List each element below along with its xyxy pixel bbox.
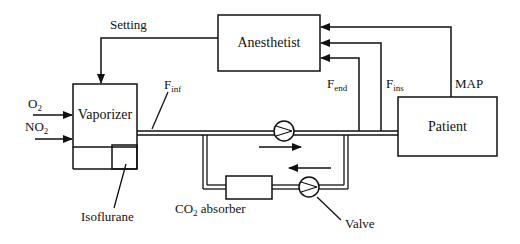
vaporizer-label: Vaporizer [73, 108, 137, 122]
inspiratory-valve [274, 121, 294, 141]
anesthetist-label: Anesthetist [218, 36, 320, 50]
f-inf-pointer [152, 92, 168, 129]
setting-signal-line [101, 38, 218, 83]
map-label: MAP [455, 77, 483, 90]
valve-pointer [317, 197, 341, 220]
f-end-label: Fend [327, 77, 347, 93]
return-loop-pipe [203, 135, 348, 189]
isoflurane-chamber [112, 145, 137, 169]
isoflurane-pointer [114, 164, 126, 208]
patient-label: Patient [398, 120, 497, 134]
f-ins-label: Fins [386, 77, 404, 93]
co2-absorber-block [226, 176, 272, 199]
setting-label: Setting [110, 18, 147, 31]
main-gas-pipe [137, 131, 398, 135]
o2-label: O2 [28, 97, 42, 113]
co2-absorber-label: CO2 absorber [175, 202, 246, 218]
isoflurane-label: Isoflurane [81, 210, 134, 223]
no2-label: NO2 [25, 120, 48, 136]
valve-label: Valve [345, 217, 375, 230]
f-inf-label: Finf [164, 78, 181, 94]
expiratory-valve [299, 177, 319, 197]
f-end-feedback-line [321, 58, 359, 131]
